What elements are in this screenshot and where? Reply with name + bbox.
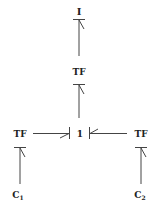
bond-c1-to-tf-left [14,148,26,185]
bond-tf-left-to-junction [33,127,70,139]
c1-label: C1 [12,190,23,201]
c2-subscript: 2 [141,194,145,201]
bond-graph-diagram: I TF 1 TF TF C1 [0,0,159,207]
c1-subscript: 1 [19,194,23,201]
bond-tf-right-to-junction [90,127,128,139]
bond-c2-to-tf-right [135,148,147,185]
bond-tf-top-to-inertia [73,20,85,57]
c1-letter: C [12,190,19,200]
tf-top-label: TF [72,67,86,77]
tf-left-label: TF [13,129,27,139]
junction-label: 1 [77,129,83,139]
c2-letter: C [134,190,141,200]
bond-junction-to-tf-top [73,85,85,119]
tf-right-label: TF [134,129,148,139]
inertia-label: I [77,6,82,17]
c2-label: C2 [134,190,145,201]
